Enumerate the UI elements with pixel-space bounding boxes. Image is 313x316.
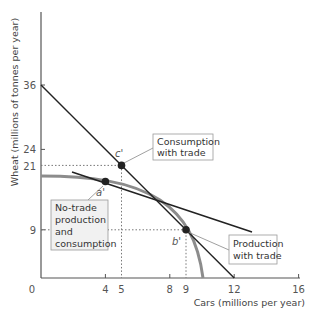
svg-text:consumption: consumption	[55, 238, 117, 249]
point-b-prime	[182, 226, 190, 234]
callout-consumption-with-trade: Consumption with trade	[153, 134, 220, 160]
callout-production-with-trade: Production with trade	[229, 235, 284, 264]
point-c-prime	[118, 162, 126, 170]
label-c-prime: c'	[115, 148, 123, 159]
y-axis-title: Wheat (millions of tonnes per year)	[9, 18, 20, 186]
y-tick-24: 24	[23, 144, 36, 155]
x-tick-0: 0	[29, 284, 35, 295]
point-a-prime	[102, 178, 110, 186]
svg-text:No-trade: No-trade	[55, 202, 97, 213]
svg-text:with trade: with trade	[233, 250, 282, 261]
label-b-prime: b'	[172, 236, 181, 247]
svg-text:and: and	[55, 226, 73, 237]
svg-text:with trade: with trade	[157, 147, 206, 158]
x-tick-9: 9	[183, 284, 189, 295]
x-tick-12: 12	[228, 284, 241, 295]
svg-text:Production: Production	[233, 238, 284, 249]
callout-no-trade: No-trade production and consumption	[51, 200, 117, 250]
x-tick-5: 5	[118, 284, 124, 295]
x-tick-4: 4	[102, 284, 108, 295]
y-tick-36: 36	[23, 80, 36, 91]
y-tick-9: 9	[30, 225, 36, 236]
x-tick-8: 8	[167, 284, 173, 295]
svg-text:Consumption: Consumption	[157, 136, 220, 147]
y-tick-21: 21	[23, 161, 36, 172]
svg-text:production: production	[55, 214, 106, 225]
label-a-prime: a'	[96, 187, 105, 198]
x-axis-title: Cars (millions per year)	[194, 297, 305, 308]
x-tick-16: 16	[292, 284, 305, 295]
trade-gains-chart: 36 24 21 9 0 4 5 8 9 12 16 Wheat (millio…	[0, 0, 313, 316]
